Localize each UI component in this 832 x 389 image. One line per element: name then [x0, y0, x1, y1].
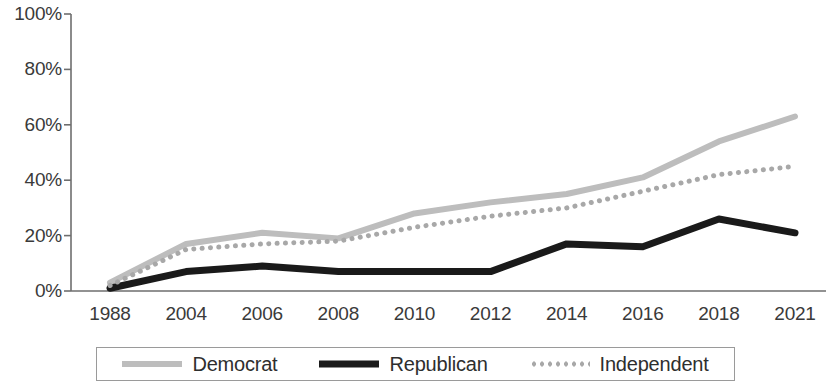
line-dotted-gray-icon	[530, 359, 590, 369]
legend-label: Democrat	[192, 354, 277, 374]
legend-item-independent[interactable]: Independent	[530, 354, 709, 374]
plot-area	[0, 0, 832, 300]
x-axis-tick-label: 2006	[227, 304, 297, 323]
x-axis-labels: 1988200420062008201020122014201620182021	[0, 300, 832, 330]
y-axis-tick-label: 100%	[4, 4, 62, 23]
x-axis-tick-label: 2021	[760, 304, 830, 323]
x-axis-tick-label: 2014	[532, 304, 602, 323]
x-axis-tick-label: 2018	[684, 304, 754, 323]
x-axis-tick-label: 2010	[379, 304, 449, 323]
legend-label: Independent	[600, 354, 709, 374]
y-axis-tick-label: 20%	[4, 226, 62, 245]
y-axis-tick-label: 40%	[4, 170, 62, 189]
x-axis-tick-label: 2016	[608, 304, 678, 323]
plot-svg	[0, 0, 832, 300]
y-axis-tick-label: 60%	[4, 115, 62, 134]
legend-label: Republican	[389, 354, 487, 374]
series-line-republican	[110, 219, 795, 288]
line-solid-black-icon	[319, 359, 379, 369]
legend-swatch-line	[122, 361, 182, 367]
y-axis-tick-label: 80%	[4, 59, 62, 78]
legend-swatch-line	[319, 361, 379, 368]
legend-item-republican[interactable]: Republican	[319, 354, 487, 374]
legend-item-democrat[interactable]: Democrat	[122, 354, 277, 374]
chart-legend: DemocratRepublicanIndependent	[96, 347, 735, 381]
line-chart: 0%20%40%60%80%100% 198820042006200820102…	[0, 0, 832, 389]
series-group	[110, 116, 795, 288]
y-axis-tick-label: 0%	[4, 281, 62, 300]
x-axis-tick-label: 2008	[303, 304, 373, 323]
x-axis-tick-label: 2004	[151, 304, 221, 323]
line-solid-light-icon	[122, 359, 182, 369]
series-line-democrat	[110, 116, 795, 282]
x-axis-tick-label: 1988	[75, 304, 145, 323]
x-axis-tick-label: 2012	[456, 304, 526, 323]
y-axis-labels: 0%20%40%60%80%100%	[0, 0, 62, 300]
legend-swatch-line	[530, 362, 590, 367]
